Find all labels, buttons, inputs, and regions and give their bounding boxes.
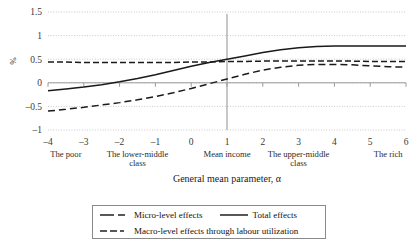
legend-label-total-effects: Total effects	[253, 210, 297, 220]
plot-area: % 1.510.50–0.5–1 –4–3–2–10123456 The poo…	[0, 0, 417, 200]
x-category-label-cont: class	[129, 158, 146, 168]
y-tick-label: –0.5	[24, 102, 42, 112]
x-tick-label: 6	[404, 137, 409, 147]
chart-figure: % 1.510.50–0.5–1 –4–3–2–10123456 The poo…	[0, 0, 417, 252]
legend-key-micro-level-effects	[100, 210, 130, 220]
y-tick-labels: 1.510.50–0.5–1	[24, 7, 42, 135]
y-tick-label: 0	[37, 78, 42, 88]
legend-key-total-effects	[219, 210, 249, 220]
x-tick-label: 1	[225, 137, 230, 147]
x-tick-label: –2	[114, 137, 125, 147]
x-category-label: Mean income	[203, 149, 250, 159]
legend-label-macro-level-effects: Macro-level effects through labour utili…	[134, 226, 298, 236]
y-axis-label: %	[8, 47, 18, 75]
x-tick-label: 3	[296, 137, 301, 147]
y-tick-label: –1	[32, 125, 43, 135]
legend-row-bottom: Macro-level effects through labour utili…	[93, 223, 325, 239]
x-category-label: The rich	[374, 149, 404, 159]
legend-label-micro-level-effects: Micro-level effects	[134, 210, 203, 220]
x-tick-label: 4	[332, 137, 337, 147]
x-tick-label: –3	[78, 137, 89, 147]
y-tick-label: 0.5	[30, 55, 42, 65]
y-tick-label: 1.5	[30, 7, 42, 17]
x-category-labels: The poorThe lower-middleclassMean income…	[50, 149, 403, 168]
legend-key-macro-level-effects	[100, 226, 130, 236]
x-tick-label: 5	[368, 137, 373, 147]
x-tick-label: –1	[150, 137, 161, 147]
chart-legend: Micro-level effects Total effects Macro-…	[92, 205, 326, 239]
x-axis-title: General mean parameter, α	[173, 173, 282, 184]
x-tick-label: –4	[42, 137, 53, 147]
x-tick-labels: –4–3–2–10123456	[42, 137, 408, 147]
y-tick-label: 1	[37, 31, 42, 41]
legend-row-top: Micro-level effects Total effects	[93, 207, 325, 223]
x-tick-label: 0	[189, 137, 194, 147]
chart-canvas: 1.510.50–0.5–1 –4–3–2–10123456 The poorT…	[0, 0, 417, 200]
x-tick-label: 2	[260, 137, 265, 147]
x-category-label: The poor	[50, 149, 81, 159]
x-category-label-cont: class	[290, 158, 307, 168]
